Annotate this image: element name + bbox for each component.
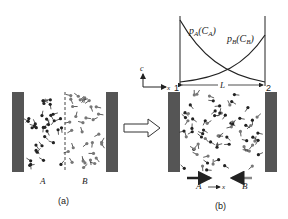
point-2-label: 2 [266,83,271,93]
curve-pb-label: pB(CB) [226,33,255,46]
flux-b-label: B [242,181,248,191]
particles-b [64,93,105,169]
caption-b: (b) [215,201,226,211]
particles-a [24,98,64,169]
label-a: A [39,176,46,186]
panel-b: pA(CA) pB(CB) c x 1 2 L A B x (b) [140,16,277,211]
left-wall [168,92,180,172]
length-label: L [219,80,225,90]
flux-axis-label: x [221,183,226,191]
axis-c-label: c [140,64,144,73]
transition-arrow-icon [124,119,160,137]
diffusion-diagram: A B (a) pA(CA) pB(CB) c x 1 2 L A B [0,0,288,219]
flux-a-label: A [195,181,202,191]
right-wall [265,92,277,172]
axis-x-label: x [166,84,171,92]
panel-a: A B (a) [12,92,118,206]
point-1-label: 1 [174,83,179,93]
left-wall [12,92,24,172]
curve-pa-label: pA(CA) [188,25,217,38]
particles-mixed [179,90,263,172]
label-b: B [82,176,88,186]
right-wall [106,92,118,172]
caption-a: (a) [58,196,69,206]
